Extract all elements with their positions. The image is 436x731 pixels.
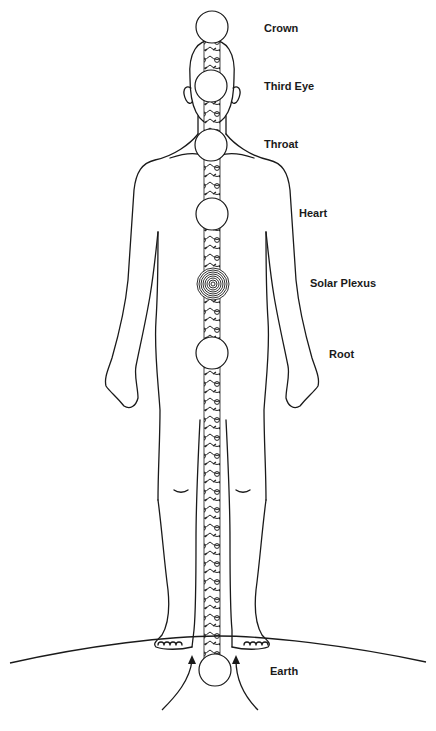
label-third-eye: Third Eye	[264, 80, 314, 92]
right-arrow	[236, 660, 258, 710]
right-leg-inner	[226, 420, 232, 647]
earth-chakra	[199, 654, 231, 686]
label-crown: Crown	[264, 22, 298, 34]
right-torso	[226, 134, 319, 408]
body-illustration	[0, 0, 436, 731]
throat-chakra	[195, 129, 227, 161]
figure-caption-clipped	[130, 722, 310, 731]
chakra-diagram: Crown Third Eye Throat Heart Solar Plexu…	[0, 0, 436, 731]
left-toes	[158, 642, 182, 645]
left-arrowhead-icon	[188, 655, 196, 664]
left-leg-outer	[155, 500, 192, 649]
right-waist	[264, 232, 269, 500]
root-chakra	[196, 337, 228, 369]
label-earth: Earth	[270, 665, 298, 677]
left-waist	[155, 232, 160, 500]
heart-chakra	[196, 198, 228, 230]
label-solar-plexus: Solar Plexus	[310, 277, 376, 289]
crown-chakra	[196, 11, 228, 43]
left-arrow	[162, 660, 192, 710]
right-toes	[244, 642, 268, 645]
solar-plexus-chakra	[197, 268, 229, 300]
left-leg-inner	[192, 420, 200, 647]
left-torso	[105, 134, 198, 408]
third-eye-chakra	[195, 70, 227, 102]
right-arrowhead-icon	[232, 655, 240, 664]
label-root: Root	[329, 348, 354, 360]
label-throat: Throat	[264, 138, 298, 150]
right-leg-outer	[232, 500, 269, 649]
label-heart: Heart	[299, 207, 327, 219]
